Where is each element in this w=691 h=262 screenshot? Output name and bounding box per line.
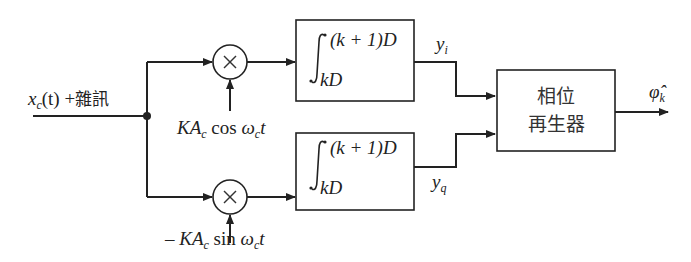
bottom-mult-out xyxy=(0,0,691,262)
